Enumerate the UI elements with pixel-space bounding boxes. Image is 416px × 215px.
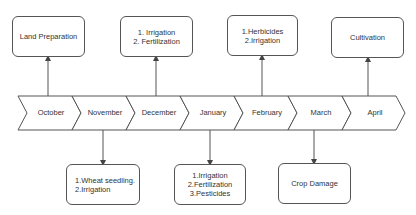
month-label-january: January [188, 108, 238, 117]
activity-text: 2. Fertilization [133, 37, 180, 46]
activity-box-crop-damage: Crop Damage [278, 163, 351, 204]
activity-box-land-preparation: Land Preparation [12, 16, 85, 57]
activity-box-january: 1.Irrigation 2.Fertilization 3.Pesticide… [174, 164, 246, 205]
activity-text: Cultivation [350, 33, 385, 42]
activity-text: Land Preparation [20, 32, 78, 41]
month-label-february: February [242, 108, 292, 117]
month-label-november: November [80, 108, 130, 117]
activity-box-november: 1.Wheat seedling. 2.Irrigation [66, 164, 140, 205]
activity-text: 2.Irrigation [75, 185, 110, 194]
month-label-april: April [350, 108, 400, 117]
activity-text: 2.Fertilization [188, 180, 233, 189]
activity-text: 1.Wheat seedling. [75, 176, 135, 185]
month-label-october: October [26, 108, 76, 117]
activity-text: 2.Irrigation [245, 36, 280, 45]
activity-box-february: 1.Herbicides 2.Irrigation [227, 15, 298, 56]
month-label-december: December [134, 108, 184, 117]
activity-box-cultivation: Cultivation [331, 17, 404, 58]
month-label-march: March [296, 108, 346, 117]
activity-box-december: 1. Irrigation 2. Fertilization [120, 16, 193, 57]
activity-text: 3.Pesticides [190, 189, 230, 198]
activity-text: 1. Irrigation [138, 28, 176, 37]
activity-text: 1.Herbicides [242, 27, 284, 36]
activity-text: 1.Irrigation [192, 171, 227, 180]
activity-text: Crop Damage [291, 179, 338, 188]
